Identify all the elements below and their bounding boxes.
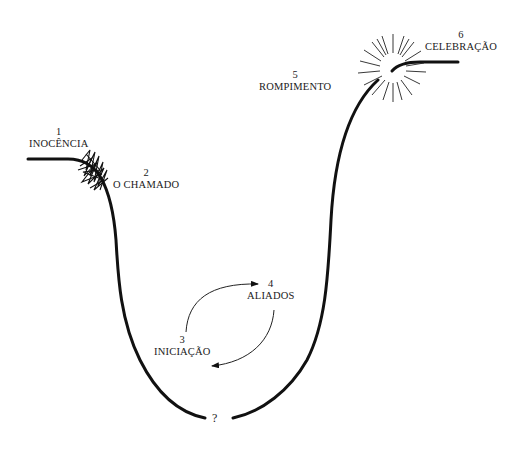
stage-6-name: CELEBRAÇÃO [425, 41, 497, 53]
stage-4-label: 4 ALIADOS [247, 278, 294, 302]
stage-4-number: 4 [247, 278, 294, 290]
stage-1-label: 1 INOCÊNCIA [29, 126, 89, 150]
stage-6-label: 6 CELEBRAÇÃO [425, 29, 497, 53]
stage-3-name: INICIAÇÃO [154, 346, 211, 358]
bottom-question-mark: ? [212, 411, 217, 426]
stage-5-name: ROMPIMENTO [259, 81, 331, 93]
journey-descent-line [28, 159, 205, 418]
stage-5-number: 5 [259, 69, 331, 81]
stage-1-number: 1 [29, 126, 89, 138]
stage-5-label: 5 ROMPIMENTO [259, 69, 331, 93]
journey-curve-svg [0, 0, 522, 452]
stage-2-number: 2 [113, 167, 179, 179]
cycle-arrow-down [212, 310, 274, 366]
stage-6-number: 6 [425, 29, 497, 41]
journey-ascent-line [233, 80, 378, 418]
stage-2-name: O CHAMADO [113, 179, 179, 191]
journey-plateau-right [392, 62, 458, 71]
stage-4-name: ALIADOS [247, 290, 294, 302]
stage-2-label: 2 O CHAMADO [113, 167, 179, 191]
stage-3-label: 3 INICIAÇÃO [154, 334, 211, 358]
stage-1-name: INOCÊNCIA [29, 138, 89, 150]
stage-3-number: 3 [154, 334, 211, 346]
hero-journey-diagram: 1 INOCÊNCIA 2 O CHAMADO 3 INICIAÇÃO 4 AL… [0, 0, 522, 452]
